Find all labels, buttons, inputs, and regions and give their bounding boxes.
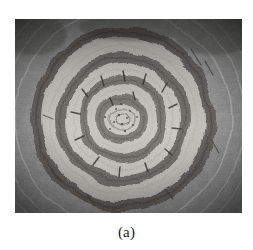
figure-caption: (a) xyxy=(0,223,253,241)
figure-block: (a) xyxy=(0,0,253,250)
photograph-frame xyxy=(15,19,242,213)
concentric-ring-photograph xyxy=(15,19,242,213)
